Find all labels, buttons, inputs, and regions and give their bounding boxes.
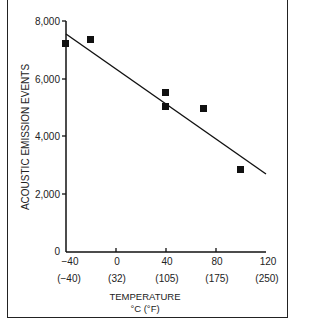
x-tick-label: −40 <box>45 256 95 267</box>
x-tick-label-f: (175) <box>192 273 242 284</box>
y-tick-label: 8,000 <box>35 16 60 27</box>
y-tick-label: 6,000 <box>35 74 60 85</box>
data-point <box>162 103 169 110</box>
x-tick-label-f: (250) <box>242 273 291 284</box>
x-tick-label-f: (105) <box>142 273 192 284</box>
y-tick-label: 2,000 <box>35 189 60 200</box>
x-tick-label: 120 <box>243 256 291 267</box>
x-axis-title: TEMPERATURE <box>37 291 253 302</box>
x-tick-label: 80 <box>192 256 242 267</box>
data-points <box>62 36 244 173</box>
x-tick-label-f: (−40) <box>44 273 94 284</box>
x-tick-label-f: (32) <box>92 273 142 284</box>
data-point <box>200 105 207 112</box>
data-point <box>87 36 94 43</box>
x-tick-label: 0 <box>92 256 142 267</box>
x-axis-units: °C (°F) <box>37 303 253 314</box>
y-tick-label: 4,000 <box>35 131 60 142</box>
data-point <box>62 40 69 47</box>
data-point <box>162 89 169 96</box>
y-axis-title: ACOUSTIC EMISSION EVENTS <box>20 64 31 210</box>
data-point <box>237 166 244 173</box>
x-tick-label: 40 <box>142 256 192 267</box>
